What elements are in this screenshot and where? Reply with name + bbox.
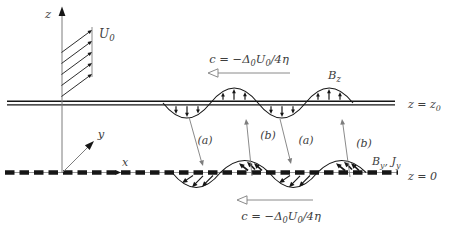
lower-boundary-label: z = 0 xyxy=(407,170,437,183)
connector-label-a1: (a) xyxy=(197,134,212,147)
y-axis-label: y xyxy=(97,127,105,141)
z-axis-label: z xyxy=(44,7,52,21)
figure: z y x U0 c = −Δ0U0/4η c = −Δ0U0/4η Bz By… xyxy=(0,0,452,232)
by-jy-field-label: By, Jy xyxy=(371,155,401,170)
connector-label-a2: (a) xyxy=(298,134,313,147)
transport-arrow-a2 xyxy=(280,119,293,165)
left-open-arrowhead-icon xyxy=(237,196,247,204)
bz-wave-curve xyxy=(163,88,353,118)
upper-boundary-label: z = z0 xyxy=(407,98,441,113)
phase-speed-arrow-bottom xyxy=(237,196,313,204)
shear-flow-arrows xyxy=(62,32,91,97)
shear-flow-profile xyxy=(62,27,94,97)
x-axis xyxy=(116,170,122,175)
y-axis xyxy=(62,139,96,173)
z-axis-arrowhead-icon xyxy=(59,7,66,17)
upper-boundary-double-line xyxy=(7,101,395,105)
bz-field-label: Bz xyxy=(327,68,341,84)
connector-label-b2: (b) xyxy=(356,137,372,150)
phase-speed-arrow-top xyxy=(208,69,290,77)
z-axis xyxy=(59,7,66,174)
phase-speed-label-bottom: c = −Δ0U0/4η xyxy=(241,209,321,225)
x-axis-label: x xyxy=(122,156,129,169)
left-open-arrowhead-icon xyxy=(208,69,218,77)
shear-flow-label: U0 xyxy=(99,27,115,43)
phase-speed-label-top: c = −Δ0U0/4η xyxy=(209,52,289,68)
connector-label-b1: (b) xyxy=(260,129,276,142)
shear-instability-diagram: z y x U0 c = −Δ0U0/4η c = −Δ0U0/4η Bz By… xyxy=(0,0,452,232)
x-axis-arrowhead-icon xyxy=(116,170,122,175)
